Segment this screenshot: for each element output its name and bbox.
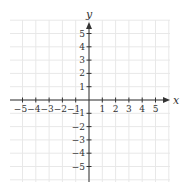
- x-tick-label: 2: [113, 104, 119, 114]
- y-tick-label: 5: [79, 29, 85, 39]
- y-tick-label: −3: [72, 135, 86, 145]
- x-tick-label: 1: [99, 104, 105, 114]
- y-axis-label: y: [85, 8, 93, 21]
- x-axis-label: x: [173, 94, 180, 107]
- x-tick-label: −5: [14, 104, 28, 114]
- x-tick-label: −2: [54, 104, 67, 114]
- y-axis-arrow-icon: [86, 22, 92, 29]
- x-tick-label: 4: [139, 104, 145, 114]
- y-tick-label: −2: [72, 122, 85, 132]
- x-tick-label: −3: [40, 104, 54, 114]
- y-tick-label: −1: [72, 108, 85, 118]
- y-tick-label: 3: [79, 55, 85, 65]
- x-tick-label: −4: [27, 104, 41, 114]
- y-tick-label: 4: [79, 42, 85, 52]
- coordinate-plane: −5−4−3−2−112345 54321−1−2−3−4−5 x y: [0, 0, 188, 187]
- y-tick-label: −5: [72, 162, 86, 172]
- y-tick-label: 2: [79, 68, 85, 78]
- y-tick-label: 1: [79, 82, 85, 92]
- x-tick-label: 5: [153, 104, 159, 114]
- x-tick-label: 3: [126, 104, 132, 114]
- grid-lines: [10, 20, 170, 182]
- y-tick-label: −4: [72, 148, 86, 158]
